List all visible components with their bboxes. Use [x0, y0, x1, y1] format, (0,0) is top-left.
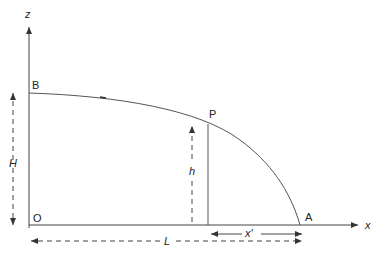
h-label: h — [189, 165, 195, 177]
profile-curve — [29, 93, 300, 225]
x-prime-label: x' — [244, 227, 254, 239]
point-b-label: B — [32, 79, 39, 91]
point-a-label: A — [305, 211, 313, 223]
z-axis-label: z — [24, 8, 31, 20]
L-label: L — [164, 235, 170, 247]
x-axis-label: x — [364, 219, 371, 231]
point-p-label: P — [209, 108, 216, 120]
origin-label: O — [33, 212, 42, 224]
flow-direction-icon — [100, 97, 106, 98]
diagram-canvas: z x O B P A h H x' L — [0, 0, 381, 253]
H-label: H — [9, 157, 17, 169]
